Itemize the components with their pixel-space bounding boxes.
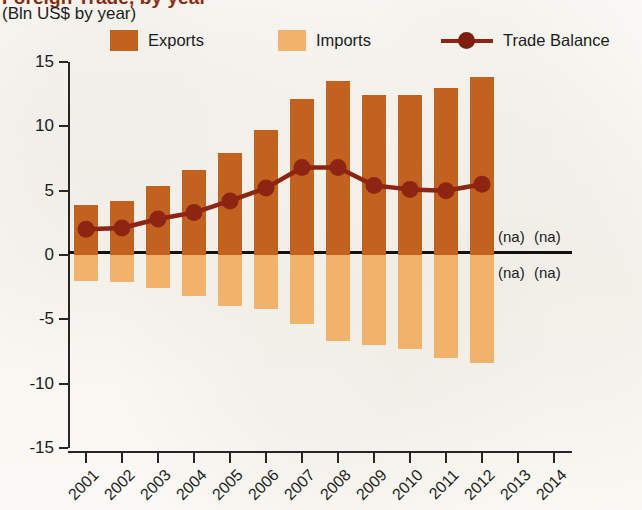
chart-subtitle: (Bln US$ by year) (2, 4, 136, 24)
x-tick-label-2014: 2014 (524, 466, 571, 510)
legend-item-imports: Imports (278, 30, 371, 51)
chart-legend: Exports Imports Trade Balance (110, 30, 610, 51)
na-label-2014: (na) (534, 264, 561, 281)
x-tick (481, 451, 483, 463)
legend-label-exports: Exports (148, 31, 204, 50)
trade-balance-point (366, 177, 383, 194)
y-tick-label: 5 (0, 181, 54, 201)
y-tick-label: 10 (0, 116, 54, 136)
legend-item-trade-balance: Trade Balance (441, 30, 610, 51)
na-label-2014: (na) (534, 228, 561, 245)
imports-swatch-icon (278, 30, 306, 51)
y-tick (59, 61, 68, 63)
trade-balance-point (114, 219, 131, 236)
x-tick (337, 451, 339, 463)
trade-balance-point (330, 159, 347, 176)
foreign-trade-chart: Foreign Trade, by year (Bln US$ by year)… (0, 0, 642, 510)
y-tick (59, 254, 68, 256)
trade-balance-point (402, 181, 419, 198)
trade-balance-point (186, 204, 203, 221)
trade-balance-point (294, 159, 311, 176)
y-tick-label: -5 (0, 309, 54, 329)
y-tick-label: 15 (0, 52, 54, 72)
legend-label-imports: Imports (316, 31, 371, 50)
y-tick (59, 447, 68, 449)
x-tick (301, 451, 303, 463)
y-tick-label: -15 (0, 438, 54, 458)
x-tick (517, 451, 519, 463)
na-label-2013: (na) (498, 264, 525, 281)
trade-balance-point (258, 180, 275, 197)
y-tick (59, 318, 68, 320)
x-tick (157, 451, 159, 463)
y-tick-label: -10 (0, 374, 54, 394)
plot-area: (na)(na)(na)(na) (68, 62, 572, 448)
na-label-2013: (na) (498, 228, 525, 245)
y-tick (59, 125, 68, 127)
trade-balance-point (438, 182, 455, 199)
legend-item-exports: Exports (110, 30, 204, 51)
y-tick (59, 383, 68, 385)
x-tick (193, 451, 195, 463)
trade-balance-point (150, 210, 167, 227)
x-tick (373, 451, 375, 463)
x-tick (445, 451, 447, 463)
trade-balance-point (222, 192, 239, 209)
x-tick (229, 451, 231, 463)
x-tick (409, 451, 411, 463)
x-tick (553, 451, 555, 463)
trade-balance-line-marker-icon (441, 30, 493, 51)
trade-balance-point (78, 221, 95, 238)
x-tick (85, 451, 87, 463)
x-tick (121, 451, 123, 463)
x-axis-line (68, 451, 572, 453)
trade-balance-point (474, 176, 491, 193)
exports-swatch-icon (110, 30, 138, 51)
x-tick (265, 451, 267, 463)
y-tick (59, 190, 68, 192)
y-tick-label: 0 (0, 245, 54, 265)
trade-balance-line (68, 62, 572, 448)
legend-label-trade-balance: Trade Balance (503, 31, 610, 50)
